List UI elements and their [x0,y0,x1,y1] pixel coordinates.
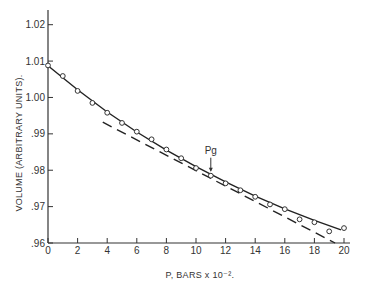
data-point-marker [134,129,139,134]
data-point-marker [312,220,317,225]
y-tick-label: .98 [31,165,45,176]
data-point-marker [223,181,228,186]
arrowhead-icon [209,168,213,172]
y-axis-label: VOLUME (ARBITRARY UNITS). [14,74,24,211]
data-point-marker [46,63,51,68]
y-tick-label: 1.01 [26,56,46,67]
data-point-marker [60,74,65,79]
x-tick-label: 8 [164,245,170,256]
data-point-marker [105,110,110,115]
data-point-marker [194,166,199,171]
x-tick-label: 6 [134,245,140,256]
x-tick-label: 18 [309,245,321,256]
x-tick-label: 12 [220,245,232,256]
data-point-marker [75,89,80,94]
x-tick-label: 10 [190,245,202,256]
data-point-marker [149,137,154,142]
data-point-marker [179,156,184,161]
plot-area: Pg [46,63,347,243]
x-tick-label: 20 [338,245,350,256]
y-tick-label: .96 [31,238,45,249]
chart: 02468101214161820.96.97.98.991.001.011.0… [0,0,369,288]
x-tick-label: 0 [45,245,51,256]
x-tick-label: 16 [279,245,291,256]
data-point-marker [268,202,273,207]
data-point-marker [342,226,347,231]
x-tick-label: 2 [75,245,81,256]
y-tick-label: 1.00 [26,92,46,103]
axes [48,10,350,243]
y-tick-label: 1.02 [26,19,46,30]
y-tick-label: .99 [31,128,45,139]
data-point-marker [282,207,287,212]
x-axis-label: P, BARS x 10⁻². [166,270,235,280]
pg-annotation-label: Pg [205,145,217,156]
dashed-extrapolation-line [103,122,335,243]
y-tick-label: .97 [31,201,45,212]
x-tick-label: 4 [104,245,110,256]
data-point-marker [208,173,213,178]
data-point-marker [297,217,302,222]
x-tick-label: 14 [250,245,262,256]
data-point-marker [253,194,258,199]
data-point-marker [90,101,95,106]
data-point-marker [120,121,125,126]
data-point-marker [327,229,332,234]
data-point-marker [238,188,243,193]
data-point-marker [164,147,169,152]
fitted-curve [48,66,341,230]
